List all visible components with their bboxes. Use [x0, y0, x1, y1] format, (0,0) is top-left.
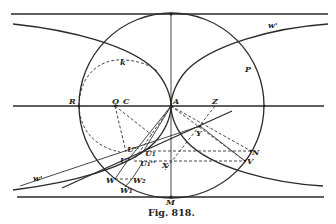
label-A: A — [172, 96, 179, 106]
label-U2: U'' — [127, 144, 139, 154]
dashed-arc-lower — [79, 106, 120, 152]
point-right — [263, 105, 266, 108]
label-W1: W₁ — [120, 185, 133, 195]
label-Q: Q — [112, 96, 119, 106]
label-U1b: U₁'' — [140, 158, 155, 168]
label-X: X — [161, 160, 169, 170]
label-Y: Y — [196, 128, 203, 138]
label-w-top: w' — [268, 20, 277, 30]
label-P: P — [244, 64, 252, 74]
label-U: U' — [120, 155, 129, 165]
label-U1: U₁ — [145, 148, 155, 158]
label-R: R — [68, 96, 76, 106]
label-V: V — [247, 156, 254, 166]
label-M: M — [165, 197, 176, 207]
label-W: W — [106, 175, 116, 185]
curve-lower-right — [171, 106, 323, 186]
point-V — [244, 160, 246, 162]
label-C: C — [123, 96, 130, 106]
label-Z: Z — [211, 96, 219, 106]
geometric-figure: w' w' P k R Q C A Z Y N V X U' U'' U₁ U₁… — [0, 0, 336, 224]
figure-caption: Fig. 818. — [148, 207, 195, 218]
point-top — [170, 13, 173, 16]
point-R — [78, 105, 81, 108]
label-w-bottom: w' — [33, 173, 42, 183]
label-W2: W₂ — [133, 175, 146, 185]
point-Y — [199, 125, 201, 127]
dash-A-N — [171, 106, 251, 151]
label-k: k — [120, 57, 126, 67]
